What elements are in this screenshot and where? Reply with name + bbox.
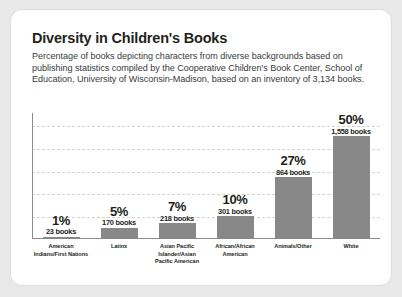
bar-series: 1% 23 books 5% 170 books 7% 218 books [32, 113, 380, 239]
bar-rect[interactable] [217, 216, 254, 239]
bar-rect[interactable] [159, 223, 196, 239]
bar-value-labels: 7% 218 books [160, 200, 194, 222]
x-axis-label: African/African American [206, 243, 264, 266]
bar-rect[interactable] [275, 177, 312, 239]
bar-count-label: 864 books [276, 169, 310, 176]
plot-area: 1% 23 books 5% 170 books 7% 218 books [32, 113, 380, 239]
bar-percent-label: 27% [276, 154, 310, 167]
bar-column[interactable]: 7% 218 books [148, 113, 206, 239]
bar-rect[interactable] [43, 237, 80, 239]
bar-value-labels: 1% 23 books [46, 214, 76, 236]
x-axis-label: Latinx [90, 243, 148, 266]
bar-value-labels: 5% 170 books [102, 205, 136, 227]
bar-column[interactable]: 1% 23 books [32, 113, 90, 239]
x-axis-labels: American Indians/First Nations Latinx As… [32, 243, 380, 266]
bar-column[interactable]: 10% 301 books [206, 113, 264, 239]
x-axis-label: American Indians/First Nations [32, 243, 90, 266]
chart-subtitle: Percentage of books depicting characters… [32, 51, 376, 86]
x-axis-label: Asian Pacific Islander/Asian Pacific Ame… [148, 243, 206, 266]
bar-count-label: 23 books [46, 228, 76, 235]
bar-percent-label: 5% [102, 205, 136, 218]
bar-count-label: 218 books [160, 215, 194, 222]
bar-count-label: 1,558 books [331, 128, 371, 135]
bar-value-labels: 27% 864 books [276, 154, 310, 176]
x-axis-label: Animals/Other [264, 243, 322, 266]
bar-count-label: 301 books [218, 208, 252, 215]
bar-percent-label: 1% [46, 214, 76, 227]
bar-count-label: 170 books [102, 219, 136, 226]
page-title: Diversity in Children's Books [32, 30, 227, 46]
bar-value-labels: 10% 301 books [218, 193, 252, 215]
bar-percent-label: 50% [331, 113, 371, 126]
bar-rect[interactable] [333, 136, 370, 239]
bar-percent-label: 7% [160, 200, 194, 213]
bar-percent-label: 10% [218, 193, 252, 206]
chart-card: Diversity in Children's Books Percentage… [10, 9, 392, 286]
bar-column[interactable]: 27% 864 books [264, 113, 322, 239]
bar-rect[interactable] [101, 228, 138, 240]
bar-column[interactable]: 5% 170 books [90, 113, 148, 239]
bar-column[interactable]: 50% 1,558 books [322, 113, 380, 239]
x-axis-label: White [322, 243, 380, 266]
bar-value-labels: 50% 1,558 books [331, 113, 371, 135]
